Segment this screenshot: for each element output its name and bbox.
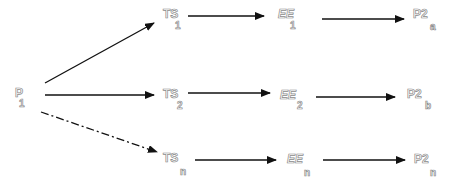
node-tsn-subscript: n: [180, 167, 186, 177]
node-p2b-subscript: b: [425, 101, 431, 111]
node-ee2-label: EE: [280, 89, 296, 101]
node-ee2-subscript: 2: [297, 101, 303, 111]
node-p2b-label: P2: [407, 88, 422, 100]
node-p2n-label: P2: [414, 153, 429, 165]
node-een-label: EE: [287, 153, 303, 165]
node-p2a-label: P2: [413, 8, 428, 20]
diagram-canvas: P 1 TS 1 TS 2 TS n EE 1 EE 2 EE n P2 a P…: [0, 0, 456, 188]
node-ts2-subscript: 2: [177, 101, 183, 111]
node-ts2-label: TS: [163, 88, 178, 100]
node-een-subscript: n: [304, 168, 310, 178]
edge-p1-ts1: [45, 23, 154, 83]
edge-p1-tsn: [41, 112, 157, 152]
node-ts1-label: TS: [163, 8, 178, 20]
node-p2a-subscript: a: [430, 22, 436, 32]
node-p2n-subscript: n: [430, 168, 436, 178]
edges-layer: [0, 0, 456, 188]
node-p1-subscript: 1: [19, 99, 25, 109]
node-tsn-label: TS: [163, 152, 178, 164]
node-ee1-label: EE: [278, 8, 294, 20]
node-ee1-subscript: 1: [290, 21, 296, 31]
node-ts1-subscript: 1: [175, 21, 181, 31]
